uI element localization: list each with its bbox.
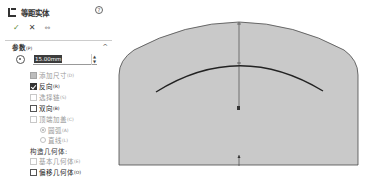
cap-line-radio[interactable]: 直线(L): [40, 135, 68, 145]
panel-title: 等距实体: [21, 7, 49, 18]
offset-distance-value[interactable]: 15.00mm: [34, 55, 62, 63]
sketch-drawing[interactable]: [114, 0, 369, 181]
origin-marker-icon: [237, 106, 240, 110]
cancel-button[interactable]: ✕: [29, 23, 36, 33]
collapse-chevron-icon[interactable]: ^: [102, 43, 108, 51]
action-bar: ✓ ✕ ⇔: [13, 23, 50, 33]
ok-button[interactable]: ✓: [13, 23, 20, 33]
property-manager-panel: 等距实体 ? ✓ ✕ ⇔ 参数(P) ^ 15.00mm ▲ ▼ 添加尺寸(D)…: [0, 0, 114, 181]
bidirectional-checkbox[interactable]: 双向(B): [30, 103, 60, 113]
sketch-profile[interactable]: [119, 22, 358, 165]
select-chain-checkbox[interactable]: 选择链(S): [30, 92, 66, 102]
offset-geometry-checkbox[interactable]: 偏移几何体(O): [30, 167, 81, 177]
checkbox-box[interactable]: [30, 116, 37, 123]
pin-button[interactable]: ⇔: [44, 23, 50, 33]
section-title: 参数(P): [12, 42, 32, 52]
checkbox-box[interactable]: [30, 94, 37, 101]
offset-distance-input[interactable]: 15.00mm ▲ ▼: [33, 54, 97, 65]
checkbox-box[interactable]: [30, 158, 37, 165]
checkbox-box[interactable]: [30, 72, 37, 79]
spinner-down-icon[interactable]: ▼: [92, 59, 97, 64]
checkbox-box[interactable]: [30, 105, 37, 112]
cap-arc-radio[interactable]: 圆弧(A): [40, 125, 69, 135]
add-dimensions-checkbox[interactable]: 添加尺寸(D): [30, 70, 74, 80]
graphics-area[interactable]: [114, 0, 369, 181]
checkbox-box[interactable]: [30, 169, 37, 176]
spinner[interactable]: ▲ ▼: [91, 54, 97, 65]
radio-button[interactable]: [40, 127, 46, 133]
help-icon[interactable]: ?: [95, 6, 103, 14]
reverse-checkbox[interactable]: 反向(R): [30, 81, 60, 91]
construction-geometry-label: 构造几何体:: [30, 146, 67, 156]
panel-header: 等距实体: [8, 6, 108, 18]
offset-distance-row: 15.00mm ▲ ▼: [16, 53, 108, 65]
offset-distance-icon: [16, 55, 25, 64]
base-geometry-checkbox[interactable]: 基本几何体(E): [30, 156, 80, 166]
radio-button[interactable]: [40, 137, 46, 143]
parameters-section-header[interactable]: 参数(P) ^: [5, 40, 112, 52]
checkbox-box[interactable]: [30, 83, 37, 90]
offset-entities-icon: [8, 8, 17, 17]
cap-ends-checkbox[interactable]: 顶端加盖(C): [30, 114, 74, 124]
